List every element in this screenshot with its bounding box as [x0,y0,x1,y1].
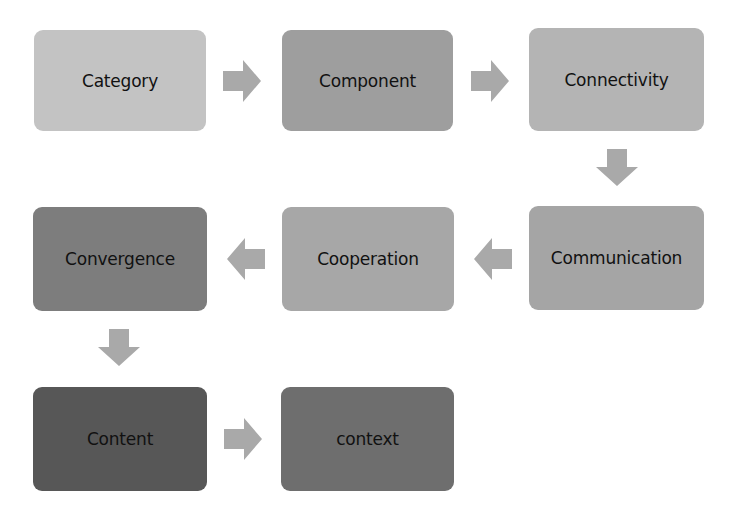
node-communication: Communication [529,206,704,310]
arrow-right-icon [471,60,509,102]
arrow-left-icon [474,238,512,280]
node-label: Component [319,71,416,91]
node-connectivity: Connectivity [529,28,704,131]
node-cooperation: Cooperation [282,207,454,311]
node-label: Category [82,71,158,91]
arrow-right-icon [224,418,262,460]
node-convergence: Convergence [33,207,207,311]
node-label: Convergence [65,249,175,269]
node-category: Category [34,30,206,131]
arrow-down-icon [98,329,140,366]
node-label: context [336,429,399,449]
arrow-right-icon [223,60,261,102]
node-component: Component [282,30,453,131]
node-label: Communication [551,248,682,268]
arrow-down-icon [596,149,638,186]
node-context: context [281,387,454,491]
node-label: Content [87,429,153,449]
node-label: Connectivity [564,70,668,90]
arrow-left-icon [227,238,265,280]
node-content: Content [33,387,207,491]
node-label: Cooperation [317,249,419,269]
